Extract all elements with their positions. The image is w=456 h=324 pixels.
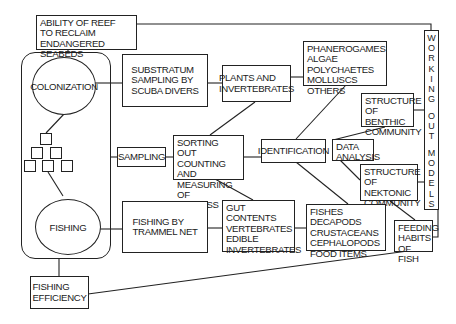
pyramid-square-top — [40, 133, 52, 145]
letter: E — [428, 178, 434, 188]
node-phanerogames: PHANEROGAMES ALGAE POLYCHAETES MOLLUSCS … — [303, 41, 387, 86]
letter: O — [428, 111, 435, 121]
node-plants-invertebrates: PLANTS AND INVERTEBRATES — [222, 65, 291, 102]
pyramid-square-bottom-mid — [42, 160, 54, 172]
letter: R — [428, 53, 435, 63]
pyramid-square-mid-right — [50, 147, 62, 159]
node-nektonic-structure: STRUCTURE OF NEKTONIC COMMUNITY — [360, 164, 418, 201]
node-ability-of-reef: ABILITY OF REEF TO RECLAIM ENDANGERED SE… — [36, 15, 137, 50]
node-identification: IDENTIFICATION — [261, 139, 326, 163]
node-sampling: SAMPLING — [117, 147, 166, 167]
letter: L — [429, 189, 434, 199]
letter: W — [427, 33, 436, 43]
node-substratum-sampling: SUBSTRATUM SAMPLING BY SCUBA DIVERS — [122, 54, 208, 107]
letter: O — [428, 43, 435, 53]
letter: T — [429, 131, 435, 141]
letter: N — [428, 84, 435, 94]
node-feeding-habits: FEEDING HABITS OF FISH — [394, 220, 433, 252]
node-benthic-structure: STRUCTURE OF BENTHIC COMMUNITY — [361, 93, 414, 127]
letter: M — [428, 148, 436, 158]
letter: U — [428, 121, 435, 131]
node-gut-contents: GUT CONTENTS VERTEBRATES EDIBLE INVERTEB… — [222, 200, 295, 252]
letter: K — [428, 64, 434, 74]
node-fishing: FISHING — [35, 199, 101, 255]
letter: G — [428, 94, 435, 104]
letter: D — [428, 168, 435, 178]
node-sorting-out: SORTING OUT COUNTING AND MEASURING OF BI… — [173, 135, 244, 180]
node-fishing-by-trammel-net: FISHING BY TRAMMEL NET — [122, 201, 208, 253]
pyramid-square-mid-left — [31, 147, 43, 159]
letter: I — [430, 74, 433, 84]
node-working-out-models: W O R K I N G O U T M O D E L S — [424, 30, 439, 210]
node-fishes-decapods: FISHES DECAPODS CRUSTACEANS CEPHALOPODS … — [306, 204, 386, 251]
node-data-analysis: DATA ANALYSIS — [332, 139, 374, 161]
pyramid-square-bottom-left — [24, 160, 36, 172]
node-colonization: COLONIZATION — [32, 57, 96, 115]
letter: S — [428, 199, 434, 209]
letter: O — [428, 158, 435, 168]
pyramid-square-bottom-right — [61, 160, 73, 172]
node-fishing-efficiency: FISHING EFFICIENCY — [30, 276, 89, 309]
